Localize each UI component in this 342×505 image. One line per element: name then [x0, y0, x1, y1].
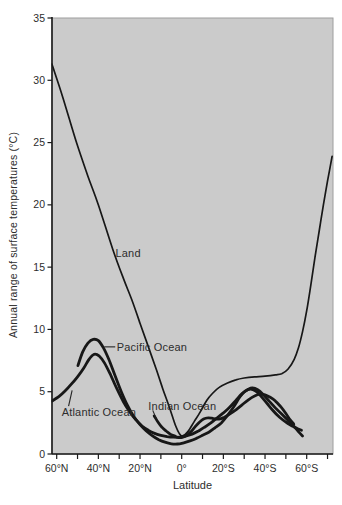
y-tick-label: 0 — [39, 448, 45, 460]
y-tick-label: 30 — [33, 74, 45, 86]
y-axis-title: Annual range of surface temperatures (°C… — [8, 132, 19, 338]
x-tick-label: 0° — [177, 462, 187, 474]
label-indian-ocean: Indian Ocean — [148, 401, 216, 412]
chart-plot-svg: 60°N40°N20°N0°20°S40°S60°S05101520253035 — [0, 0, 342, 505]
chart-figure: 60°N40°N20°N0°20°S40°S60°S05101520253035… — [0, 0, 342, 505]
x-tick-label: 60°N — [45, 462, 68, 474]
x-tick-label: 20°N — [128, 462, 151, 474]
y-tick-label: 10 — [33, 323, 45, 335]
y-tick-label: 35 — [33, 12, 45, 24]
label-atlantic-ocean: Atlantic Ocean — [62, 406, 136, 417]
x-axis-title: Latitude — [173, 480, 212, 491]
x-tick-label: 40°S — [254, 462, 277, 474]
x-tick-label: 60°S — [295, 462, 318, 474]
label-land: Land — [115, 248, 140, 259]
y-tick-label: 20 — [33, 198, 45, 210]
plot-panel — [52, 18, 333, 454]
y-tick-label: 5 — [39, 385, 45, 397]
y-tick-label: 15 — [33, 261, 45, 273]
y-tick-label: 25 — [33, 136, 45, 148]
label-pacific-ocean: Pacific Ocean — [117, 341, 187, 352]
x-tick-label: 40°N — [87, 462, 110, 474]
x-tick-label: 20°S — [212, 462, 235, 474]
